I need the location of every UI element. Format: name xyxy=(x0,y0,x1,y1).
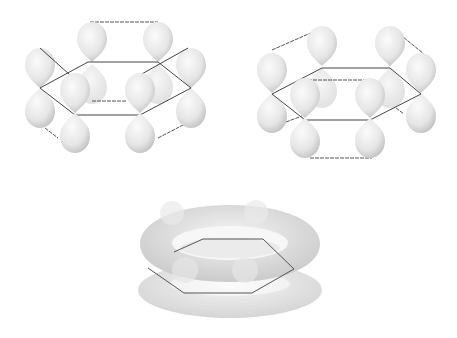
back-orbital-lobes xyxy=(307,68,405,108)
upper-electron-ring xyxy=(140,200,320,283)
delocalized-pi-cloud xyxy=(138,200,322,318)
back-orbital-lobes xyxy=(77,64,173,104)
kekule-structure-right xyxy=(257,26,436,158)
kekule-structure-left xyxy=(25,22,206,153)
benzene-orbital-diagram xyxy=(0,0,457,338)
